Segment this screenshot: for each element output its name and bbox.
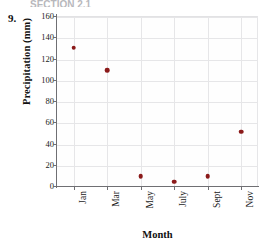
gridline-horizontal <box>57 123 257 124</box>
x-tick-mark <box>174 187 175 190</box>
gridline-vertical <box>74 17 75 186</box>
data-point <box>105 68 110 73</box>
gridline-vertical <box>141 17 142 186</box>
y-tick-label: 100 <box>28 75 54 85</box>
y-tick-label: 120 <box>28 54 54 64</box>
gridline-horizontal <box>57 38 257 39</box>
y-tick-label: 20 <box>28 160 54 170</box>
x-tick-mark <box>241 187 242 190</box>
gridline-horizontal <box>57 145 257 146</box>
y-tick-label: 80 <box>28 96 54 106</box>
y-tick-label: 0 <box>28 181 54 191</box>
x-tick-mark <box>141 187 142 190</box>
x-tick-label: Mar <box>111 191 121 207</box>
x-tick-label: July <box>178 191 188 207</box>
x-axis-title: Month <box>57 229 258 240</box>
plot-area <box>57 16 258 186</box>
x-tick-label: Jan <box>78 191 88 204</box>
data-point <box>71 46 76 51</box>
gridline-vertical <box>208 17 209 186</box>
y-tick-label: 60 <box>28 117 54 127</box>
gridline-horizontal <box>57 60 257 61</box>
gridline-horizontal <box>57 81 257 82</box>
y-tick-label: 40 <box>28 139 54 149</box>
x-tick-label: Nov <box>245 191 255 207</box>
data-point <box>138 174 143 179</box>
x-tick-mark <box>74 187 75 190</box>
y-axis-tick-labels: 020406080100120140160 <box>26 16 54 186</box>
gridline-horizontal <box>57 102 257 103</box>
gridline-vertical <box>174 17 175 186</box>
gridline-horizontal <box>57 17 257 18</box>
data-point <box>172 179 177 184</box>
gridline-horizontal <box>57 166 257 167</box>
y-tick-label: 140 <box>28 32 54 42</box>
gridline-vertical <box>241 17 242 186</box>
section-header: SECTION 2.1 <box>30 0 110 7</box>
gridline-vertical <box>107 17 108 186</box>
x-axis-tick-labels: JanMarMayJulySeptNov <box>57 191 258 225</box>
problem-number: 9. <box>8 12 16 24</box>
y-tick-label: 160 <box>28 11 54 21</box>
x-tick-label: Sept <box>212 191 222 208</box>
data-point <box>205 174 210 179</box>
y-axis-line <box>56 14 57 188</box>
x-tick-label: May <box>145 191 155 208</box>
data-point <box>239 129 244 134</box>
x-tick-mark <box>208 187 209 190</box>
x-tick-mark <box>107 187 108 190</box>
